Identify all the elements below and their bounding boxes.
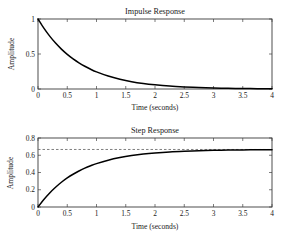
x-tick-label: 1: [95, 209, 99, 218]
y-tick-label: 0.4: [26, 168, 36, 177]
y-tick-labels-impulse: 00.51: [26, 15, 36, 94]
chart-step-response: Step Response 00.511.522.533.54 00.20.40…: [0, 121, 283, 243]
plot-frame-impulse: [38, 19, 272, 89]
chart-title-step: Step Response: [131, 126, 179, 135]
x-tick-label: 1.5: [121, 209, 131, 218]
x-tick-label: 1.5: [121, 91, 131, 100]
x-tick-label: 1: [95, 91, 99, 100]
tick-marks-impulse: [38, 19, 272, 89]
y-tick-label: 0.2: [26, 185, 36, 194]
x-tick-label: 4: [270, 209, 274, 218]
x-tick-labels-step: 00.511.522.533.54: [36, 209, 274, 218]
figure-container: Impulse Response 00.511.522.533.54 00.51…: [0, 0, 283, 243]
y-tick-label: 1: [31, 15, 35, 24]
y-tick-label: 0.6: [26, 151, 36, 160]
x-tick-label: 2: [153, 209, 157, 218]
y-tick-label: 0.8: [26, 134, 36, 143]
y-tick-label: 0: [31, 203, 35, 212]
x-axis-label-impulse: Time (seconds): [132, 103, 179, 112]
x-tick-label: 0.5: [63, 209, 73, 218]
y-tick-label: 0.5: [26, 50, 36, 59]
x-tick-label: 0: [36, 209, 40, 218]
x-tick-label: 3: [212, 91, 216, 100]
y-axis-label-impulse: Amplitude: [7, 37, 16, 70]
plot-frame-step: [38, 138, 272, 207]
step-response-curve: [38, 150, 272, 207]
tick-marks-step: [38, 138, 272, 207]
x-tick-label: 3: [212, 209, 216, 218]
x-tick-label: 2.5: [180, 209, 190, 218]
x-tick-label: 2: [153, 91, 157, 100]
y-tick-label: 0: [31, 85, 35, 94]
x-axis-label-step: Time (seconds): [132, 222, 179, 231]
impulse-response-curve: [38, 19, 272, 89]
x-tick-label: 2.5: [180, 91, 190, 100]
chart-title-impulse: Impulse Response: [125, 7, 185, 16]
y-tick-labels-step: 00.20.40.60.8: [26, 134, 36, 212]
x-tick-label: 0.5: [63, 91, 73, 100]
x-tick-label: 3.5: [238, 91, 248, 100]
x-tick-label: 3.5: [238, 209, 248, 218]
x-tick-label: 0: [36, 91, 40, 100]
y-axis-label-step: Amplitude: [6, 156, 15, 189]
x-tick-label: 4: [270, 91, 274, 100]
x-tick-labels-impulse: 00.511.522.533.54: [36, 91, 274, 100]
chart-impulse-response: Impulse Response 00.511.522.533.54 00.51…: [0, 0, 283, 121]
